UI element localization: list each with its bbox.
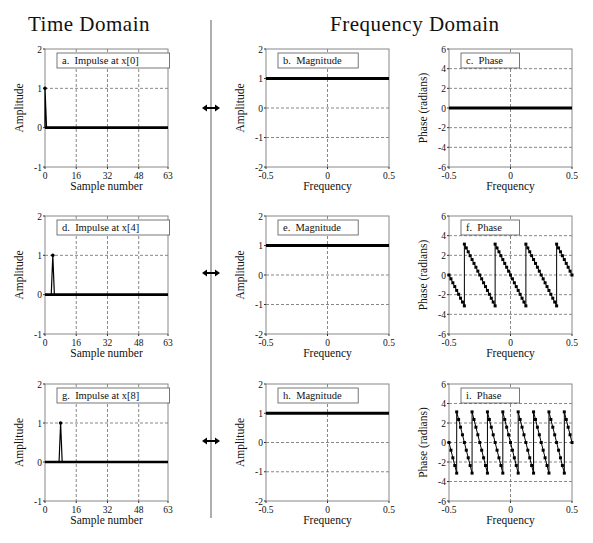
y-axis-label: Amplitude — [234, 418, 247, 467]
x-tick-label: 0.5 — [566, 171, 578, 181]
y-tick-label: 2 — [441, 84, 446, 94]
impulse-marker — [59, 421, 63, 425]
y-tick-label: 6 — [441, 380, 446, 390]
y-tick-label: 0 — [37, 290, 42, 300]
panel-label: d. Impulse at x[4] — [62, 222, 139, 233]
x-axis-label: Frequency — [486, 180, 535, 193]
x-tick-label: 0 — [43, 171, 48, 181]
panel-label: e. Magnitude — [283, 222, 341, 233]
x-tick-label: 0 — [43, 505, 48, 515]
x-tick-label: -0.5 — [441, 338, 456, 348]
x-axis-label: Sample number — [70, 514, 143, 527]
y-tick-label: 1 — [258, 409, 263, 419]
y-tick-label: -2 — [438, 123, 446, 133]
panel-label: f. Phase — [466, 222, 502, 233]
x-tick-label: 0 — [43, 338, 48, 348]
y-tick-label: 0 — [258, 271, 263, 281]
y-tick-label: 2 — [258, 45, 263, 55]
y-axis-label: Phase (radians) — [417, 240, 430, 311]
figure-canvas: -1012016324863Sample numberAmplitudea. I… — [0, 0, 593, 543]
y-axis-label: Phase (radians) — [417, 407, 430, 478]
x-tick-label: 0.5 — [566, 505, 578, 515]
impulse-trace — [45, 423, 168, 462]
x-axis-label: Frequency — [486, 514, 535, 527]
y-tick-label: 2 — [441, 419, 446, 429]
y-tick-label: 4 — [441, 231, 446, 241]
x-tick-label: 0.5 — [383, 171, 395, 181]
y-tick-label: -1 — [34, 163, 42, 173]
y-tick-label: 0 — [37, 458, 42, 468]
y-axis-label: Amplitude — [13, 250, 26, 299]
y-tick-label: 6 — [441, 212, 446, 222]
y-tick-label: 2 — [37, 212, 42, 222]
y-tick-label: 0 — [258, 104, 263, 114]
y-tick-label: 0 — [37, 123, 42, 133]
panel-label: h. Magnitude — [283, 390, 342, 401]
impulse-trace — [45, 255, 168, 294]
x-axis-label: Sample number — [70, 180, 143, 193]
y-tick-label: 0 — [441, 104, 446, 114]
chart-panel-a: -1012016324863Sample numberAmplitudea. I… — [13, 45, 173, 194]
chart-panel-e: -2-1012-0.500.5FrequencyAmplitudee. Magn… — [234, 212, 395, 361]
y-tick-label: 6 — [441, 45, 446, 55]
y-tick-label: 2 — [258, 212, 263, 222]
y-tick-label: -1 — [34, 497, 42, 507]
impulse-marker — [51, 254, 55, 258]
x-axis-label: Frequency — [486, 347, 535, 360]
y-tick-label: 2 — [37, 380, 42, 390]
y-tick-label: -4 — [438, 477, 446, 487]
x-tick-label: -0.5 — [441, 171, 456, 181]
chart-panel-c: -6-4-20246-0.500.5FrequencyPhase (radian… — [417, 45, 578, 194]
y-axis-label: Amplitude — [13, 83, 26, 132]
y-tick-label: -4 — [438, 143, 446, 153]
y-tick-label: 0 — [258, 438, 263, 448]
x-axis-label: Frequency — [303, 347, 352, 360]
y-axis-label: Amplitude — [234, 250, 247, 299]
y-tick-label: 2 — [37, 45, 42, 55]
y-axis-label: Amplitude — [234, 83, 247, 132]
y-tick-label: 2 — [258, 380, 263, 390]
y-tick-label: 0 — [441, 438, 446, 448]
chart-panel-d: -1012016324863Sample numberAmplituded. I… — [13, 212, 173, 361]
y-tick-label: -1 — [255, 467, 263, 477]
y-tick-label: 0 — [441, 271, 446, 281]
y-tick-label: 1 — [258, 74, 263, 84]
panel-label: a. Impulse at x[0] — [62, 55, 139, 66]
chart-panel-b: -2-1012-0.500.5FrequencyAmplitudeb. Magn… — [234, 45, 395, 194]
chart-panel-i: -6-4-20246-0.500.5FrequencyPhase (radian… — [417, 380, 578, 528]
x-axis-label: Frequency — [303, 514, 352, 527]
y-tick-label: 4 — [441, 64, 446, 74]
y-tick-label: -4 — [438, 310, 446, 320]
impulse-trace — [45, 88, 168, 127]
y-axis-label: Amplitude — [13, 418, 26, 467]
y-tick-label: 1 — [37, 419, 42, 429]
y-axis-label: Phase (radians) — [417, 73, 430, 144]
impulse-marker — [43, 87, 47, 91]
panel-label: g. Impulse at x[8] — [62, 390, 139, 401]
x-axis-label: Frequency — [303, 180, 352, 193]
panel-label: i. Phase — [466, 390, 502, 401]
x-tick-label: 0.5 — [566, 338, 578, 348]
x-tick-label: -0.5 — [441, 505, 456, 515]
panel-label: b. Magnitude — [283, 55, 342, 66]
x-axis-label: Sample number — [70, 347, 143, 360]
y-tick-label: 4 — [441, 399, 446, 409]
x-tick-label: 0.5 — [383, 505, 395, 515]
y-tick-label: 2 — [441, 251, 446, 261]
x-tick-label: -0.5 — [258, 171, 273, 181]
y-tick-label: 1 — [37, 251, 42, 261]
x-tick-label: 63 — [163, 171, 173, 181]
y-tick-label: 1 — [258, 241, 263, 251]
x-tick-label: 0.5 — [383, 338, 395, 348]
x-tick-label: 63 — [163, 338, 173, 348]
y-tick-label: -1 — [255, 300, 263, 310]
x-tick-label: 63 — [163, 505, 173, 515]
y-tick-label: -1 — [255, 133, 263, 143]
panel-label: c. Phase — [466, 55, 503, 66]
chart-panel-f: -6-4-20246-0.500.5FrequencyPhase (radian… — [417, 212, 578, 361]
y-tick-label: -2 — [438, 458, 446, 468]
chart-panel-g: -1012016324863Sample numberAmplitudeg. I… — [13, 380, 173, 528]
x-tick-label: -0.5 — [258, 338, 273, 348]
y-tick-label: 1 — [37, 84, 42, 94]
y-tick-label: -1 — [34, 330, 42, 340]
